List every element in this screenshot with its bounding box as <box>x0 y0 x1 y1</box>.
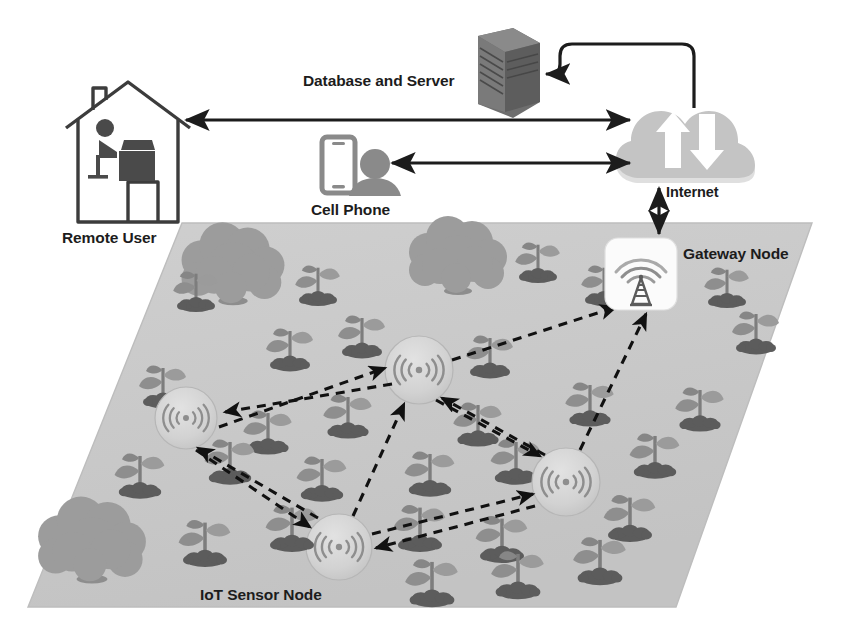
iot-sensor-node[interactable] <box>532 448 600 516</box>
label-cell-phone: Cell Phone <box>311 201 390 219</box>
mobile-phone-icon <box>322 137 355 193</box>
database-server <box>478 28 540 118</box>
diagram-canvas: Database and Server Remote User Cell Pho… <box>0 0 859 643</box>
cloud-shape <box>616 111 755 178</box>
person-head-icon <box>360 149 390 179</box>
cell-phone-user <box>322 137 401 196</box>
label-gateway-node: Gateway Node <box>683 245 789 263</box>
internet-cloud <box>616 111 755 183</box>
iot-sensor-node[interactable] <box>306 514 372 580</box>
iot-agriculture-diagram <box>0 0 859 643</box>
label-internet: Internet <box>666 184 718 200</box>
label-iot-sensor-node: IoT Sensor Node <box>200 586 322 604</box>
iot-sensor-node[interactable] <box>385 336 453 404</box>
label-remote-user: Remote User <box>62 229 157 247</box>
gateway-node[interactable] <box>605 238 677 310</box>
remote-user-person <box>88 119 155 181</box>
iot-sensor-node[interactable] <box>155 387 217 449</box>
link-cloud-server <box>546 44 694 108</box>
label-database-server: Database and Server <box>303 72 454 90</box>
